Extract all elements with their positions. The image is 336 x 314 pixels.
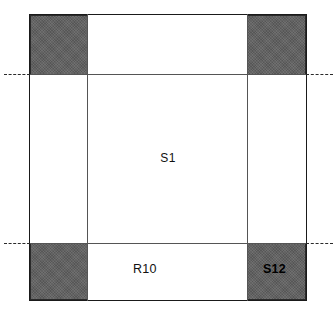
centerline-extension-left-bottom — [4, 243, 30, 244]
shaded-block-bottom-left — [30, 243, 88, 300]
shaded-block-top-left — [30, 15, 88, 75]
label-corner-block: S12 — [263, 263, 286, 276]
construction-line-horizontal-top — [29, 74, 307, 75]
construction-line-horizontal-bottom — [29, 243, 307, 244]
centerline-extension-right-top — [306, 74, 333, 75]
shaded-block-top-right — [247, 15, 306, 75]
label-lower-band: R10 — [133, 263, 157, 276]
diagram-canvas: S1 R10 S12 — [0, 0, 336, 314]
centerline-extension-left-top — [4, 74, 30, 75]
label-center-region: S1 — [0, 152, 336, 164]
centerline-extension-right-bottom — [306, 243, 333, 244]
